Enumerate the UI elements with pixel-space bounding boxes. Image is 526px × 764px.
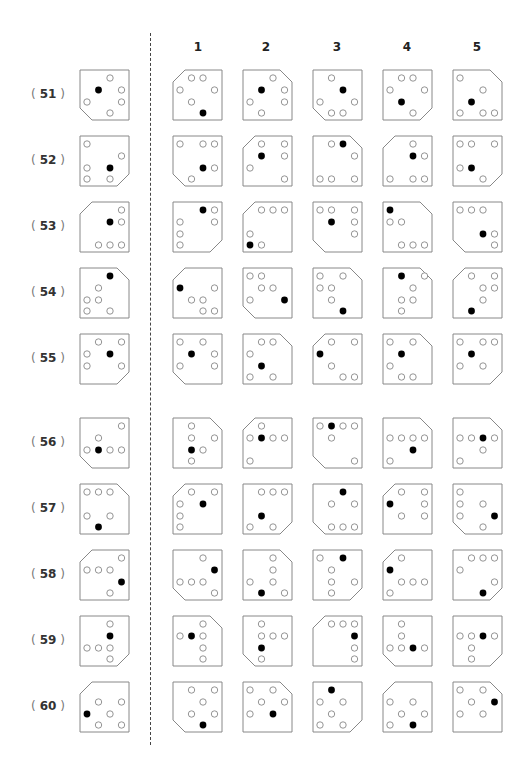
answer-option-4[interactable]	[383, 334, 432, 384]
open-dot-icon	[491, 273, 497, 279]
box-outline	[313, 70, 362, 120]
filled-dot-icon	[200, 110, 207, 117]
open-dot-icon	[410, 141, 416, 147]
open-dot-icon	[188, 176, 194, 182]
column-header-3: 3	[327, 40, 347, 54]
question-number-text: 54	[40, 285, 57, 299]
box-outline	[243, 616, 292, 666]
answer-option-5[interactable]	[453, 418, 502, 468]
open-dot-icon	[421, 645, 427, 651]
filled-dot-icon	[340, 555, 347, 562]
open-dot-icon	[468, 555, 474, 561]
answer-option-4[interactable]	[383, 202, 432, 252]
filled-dot-icon	[188, 351, 195, 358]
filled-dot-icon	[258, 153, 265, 160]
answer-option-4[interactable]	[383, 484, 432, 534]
answer-option-5[interactable]	[453, 484, 502, 534]
filled-dot-icon	[410, 645, 417, 652]
open-dot-icon	[200, 633, 206, 639]
open-dot-icon	[387, 458, 393, 464]
answer-option-3[interactable]	[313, 136, 362, 186]
answer-option-1[interactable]	[173, 70, 222, 120]
open-dot-icon	[211, 590, 217, 596]
answer-option-3[interactable]	[313, 70, 362, 120]
answer-option-4[interactable]	[383, 550, 432, 600]
open-dot-icon	[200, 75, 206, 81]
answer-option-1[interactable]	[173, 136, 222, 186]
answer-option-1[interactable]	[173, 682, 222, 732]
filled-dot-icon	[258, 590, 265, 597]
answer-option-2[interactable]	[243, 268, 292, 318]
answer-option-4[interactable]	[383, 268, 432, 318]
answer-option-5[interactable]	[453, 136, 502, 186]
answer-option-5[interactable]	[453, 202, 502, 252]
open-dot-icon	[317, 207, 323, 213]
answer-option-3[interactable]	[313, 484, 362, 534]
answer-option-1[interactable]	[173, 268, 222, 318]
answer-option-1[interactable]	[173, 334, 222, 384]
answer-option-3[interactable]	[313, 202, 362, 252]
answer-option-5[interactable]	[453, 550, 502, 600]
answer-option-1[interactable]	[173, 418, 222, 468]
open-dot-icon	[457, 711, 463, 717]
open-dot-icon	[177, 87, 183, 93]
answer-option-3[interactable]	[313, 682, 362, 732]
answer-option-2[interactable]	[243, 70, 292, 120]
open-dot-icon	[107, 645, 113, 651]
open-dot-icon	[457, 633, 463, 639]
filled-dot-icon	[468, 308, 475, 315]
answer-option-2[interactable]	[243, 334, 292, 384]
answer-option-1[interactable]	[173, 202, 222, 252]
answer-option-4[interactable]	[383, 418, 432, 468]
answer-option-2[interactable]	[243, 136, 292, 186]
open-dot-icon	[118, 699, 124, 705]
filled-dot-icon	[95, 87, 102, 94]
answer-option-1[interactable]	[173, 616, 222, 666]
open-dot-icon	[410, 374, 416, 380]
open-dot-icon	[211, 711, 217, 717]
open-dot-icon	[247, 374, 253, 380]
answer-option-4[interactable]	[383, 136, 432, 186]
answer-option-2[interactable]	[243, 616, 292, 666]
open-dot-icon	[387, 176, 393, 182]
answer-option-2[interactable]	[243, 484, 292, 534]
answer-option-2[interactable]	[243, 682, 292, 732]
open-dot-icon	[281, 207, 287, 213]
answer-option-3[interactable]	[313, 334, 362, 384]
answer-option-1[interactable]	[173, 550, 222, 600]
open-dot-icon	[421, 87, 427, 93]
open-dot-icon	[95, 567, 101, 573]
answer-option-4[interactable]	[383, 682, 432, 732]
answer-option-5[interactable]	[453, 334, 502, 384]
open-dot-icon	[270, 75, 276, 81]
question-number-text: 59	[40, 633, 57, 647]
filled-dot-icon	[328, 423, 335, 430]
open-dot-icon	[247, 99, 253, 105]
answer-option-5[interactable]	[453, 682, 502, 732]
open-dot-icon	[118, 99, 124, 105]
answer-option-2[interactable]	[243, 202, 292, 252]
reference-figure	[80, 136, 129, 186]
filled-dot-icon	[281, 297, 288, 304]
answer-option-4[interactable]	[383, 70, 432, 120]
answer-option-5[interactable]	[453, 268, 502, 318]
open-dot-icon	[188, 458, 194, 464]
answer-option-1[interactable]	[173, 484, 222, 534]
open-dot-icon	[351, 656, 357, 662]
answer-option-3[interactable]	[313, 418, 362, 468]
answer-option-3[interactable]	[313, 550, 362, 600]
answer-option-2[interactable]	[243, 550, 292, 600]
open-dot-icon	[211, 285, 217, 291]
answer-option-3[interactable]	[313, 616, 362, 666]
answer-option-2[interactable]	[243, 418, 292, 468]
answer-option-5[interactable]	[453, 70, 502, 120]
question-number-text: 58	[40, 567, 57, 581]
open-dot-icon	[421, 489, 427, 495]
open-dot-icon	[328, 567, 334, 573]
open-dot-icon	[258, 489, 264, 495]
filled-dot-icon	[387, 207, 394, 214]
filled-dot-icon	[107, 351, 114, 358]
answer-option-5[interactable]	[453, 616, 502, 666]
answer-option-3[interactable]	[313, 268, 362, 318]
answer-option-4[interactable]	[383, 616, 432, 666]
